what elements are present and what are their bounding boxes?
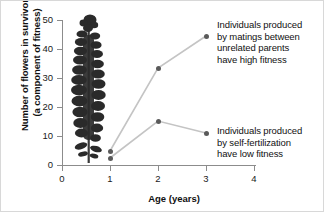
series-outcrossed-line (110, 36, 206, 151)
x-tick-3 (206, 166, 207, 171)
annotation-high-fitness-line2: by matings between (217, 31, 302, 43)
y-tick-30 (57, 78, 62, 79)
x-tick-label-3: 3 (196, 173, 216, 184)
x-tick-0 (62, 166, 63, 171)
y-tick-50 (57, 20, 62, 21)
data-point-outcrossed-1 (108, 149, 113, 154)
y-tick-label-40: 40 (27, 43, 53, 54)
y-tick-40 (57, 49, 62, 50)
x-axis-label: Age (years) (1, 193, 324, 204)
y-tick-label-50: 50 (27, 14, 53, 25)
data-point-outcrossed-2 (156, 66, 161, 71)
flowering-plant-silhouette-photo (69, 13, 109, 168)
y-tick-20 (57, 107, 62, 108)
y-tick-label-20: 20 (27, 101, 53, 112)
data-point-outcrossed-3 (204, 34, 209, 39)
y-tick-label-10: 10 (27, 130, 53, 141)
data-point-selfed-2 (156, 119, 161, 124)
figure-container: Number of flowers in survivors (a compon… (0, 0, 324, 212)
x-tick-label-1: 1 (100, 173, 120, 184)
annotation-high-fitness-line1: Individuals produced (217, 19, 302, 31)
x-tick-label-2: 2 (148, 173, 168, 184)
y-tick-label-30: 30 (27, 72, 53, 83)
annotation-low-fitness-line2: by self-fertilization (217, 137, 302, 149)
data-point-selfed-3 (204, 131, 209, 136)
y-tick-label-0: 0 (27, 159, 53, 170)
annotation-low-fitness-line3: have low fitness (217, 148, 302, 160)
annotation-high-fitness-line3: unrelated parents (217, 42, 302, 54)
x-tick-4 (254, 166, 255, 171)
annotation-high-fitness-line4: have high fitness (217, 54, 302, 66)
x-tick-label-0: 0 (52, 173, 72, 184)
series-selfed-line (110, 121, 206, 158)
x-tick-2 (158, 166, 159, 171)
y-tick-10 (57, 136, 62, 137)
annotation-low-fitness: Individuals produced by self-fertilizati… (217, 125, 302, 160)
annotation-low-fitness-line1: Individuals produced (217, 125, 302, 137)
y-axis-line (62, 20, 63, 166)
x-tick-1 (110, 166, 111, 171)
x-tick-label-4: 4 (244, 173, 264, 184)
data-point-selfed-1 (108, 156, 113, 161)
annotation-high-fitness: Individuals produced by matings between … (217, 19, 302, 65)
